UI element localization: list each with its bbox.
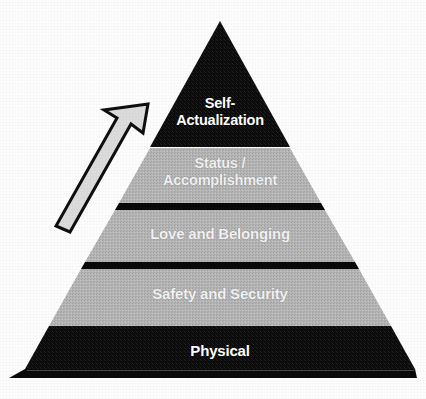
maslow-pyramid-diagram: Self- Actualization Status / Accomplishm…	[0, 0, 426, 399]
tier-label-physical: Physical	[50, 343, 390, 359]
tier-label-status-accomplishment: Status / Accomplishment	[115, 155, 325, 189]
tier-label-love-belonging: Love and Belonging	[90, 226, 350, 242]
tier-separator-3	[81, 262, 359, 269]
pyramid-graphic	[0, 0, 426, 399]
tier-label-safety-security: Safety and Security	[70, 286, 370, 302]
tier-label-self-actualization: Self- Actualization	[135, 95, 305, 129]
tier-separator-2	[115, 203, 325, 210]
